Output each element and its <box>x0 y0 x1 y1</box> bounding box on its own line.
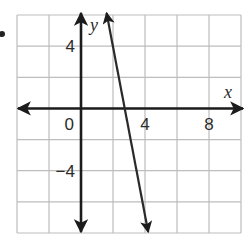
problem-bullet <box>0 31 5 37</box>
x-axis-label: x <box>223 82 232 102</box>
x-tick-label: 8 <box>204 115 213 134</box>
y-tick-label: −4 <box>56 162 75 181</box>
x-tick-label: 4 <box>140 115 149 134</box>
x-tick-label: 0 <box>65 115 74 134</box>
y-axis-label: y <box>88 15 98 35</box>
y-tick-label: 4 <box>66 37 75 56</box>
coordinate-graph: 0484−4 x y <box>0 0 248 242</box>
